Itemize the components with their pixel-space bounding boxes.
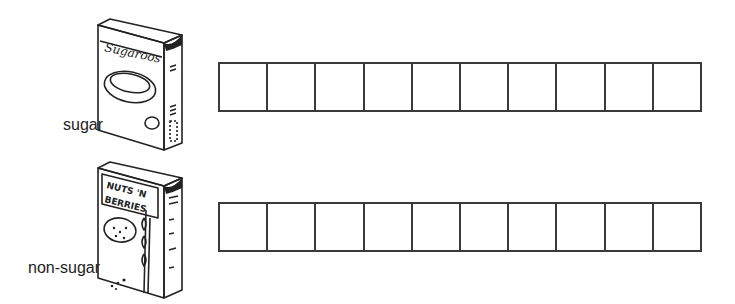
grid-cell[interactable] bbox=[461, 204, 509, 250]
cereal-box-icon: NUTS 'N BERRIES bbox=[94, 158, 186, 300]
grid-cell[interactable] bbox=[220, 204, 268, 250]
grid-cell[interactable] bbox=[268, 204, 316, 250]
cereal-box-icon: Sugaroos bbox=[94, 15, 186, 153]
non-sugar-label: non-sugar bbox=[28, 259, 100, 277]
grid-cell[interactable] bbox=[413, 64, 461, 110]
grid-cell[interactable] bbox=[557, 64, 605, 110]
grid-cell[interactable] bbox=[316, 64, 364, 110]
grid-cell[interactable] bbox=[509, 64, 557, 110]
grid-cell[interactable] bbox=[654, 64, 700, 110]
sugar-tally-grid bbox=[218, 62, 702, 112]
grid-cell[interactable] bbox=[557, 204, 605, 250]
grid-cell[interactable] bbox=[606, 204, 654, 250]
grid-cell[interactable] bbox=[268, 64, 316, 110]
sugar-label: sugar bbox=[63, 116, 103, 134]
grid-cell[interactable] bbox=[606, 64, 654, 110]
grid-cell[interactable] bbox=[316, 204, 364, 250]
grid-cell[interactable] bbox=[654, 204, 700, 250]
nuts-n-berries-cereal-box-illustration: NUTS 'N BERRIES bbox=[94, 158, 186, 300]
box-title: Sugaroos bbox=[103, 40, 162, 66]
non-sugar-tally-grid bbox=[218, 202, 702, 252]
grid-cell[interactable] bbox=[365, 64, 413, 110]
grid-cell[interactable] bbox=[220, 64, 268, 110]
sugaroos-cereal-box-illustration: Sugaroos bbox=[94, 15, 186, 153]
grid-cell[interactable] bbox=[413, 204, 461, 250]
grid-cell[interactable] bbox=[461, 64, 509, 110]
grid-cell[interactable] bbox=[509, 204, 557, 250]
grid-cell[interactable] bbox=[365, 204, 413, 250]
